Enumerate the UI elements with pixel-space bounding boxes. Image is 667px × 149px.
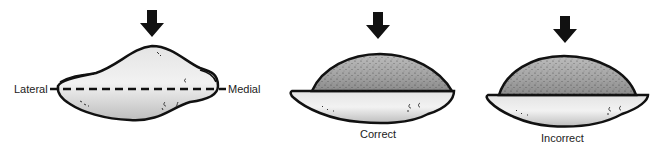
lens-shape — [58, 46, 218, 120]
diagram-canvas: Lateral Medial Correct Incorrect — [0, 0, 667, 149]
base-shape — [291, 91, 454, 123]
base-shape — [487, 95, 648, 127]
dome-stipple — [499, 56, 636, 95]
dome-stipple — [312, 54, 452, 91]
caption-incorrect: Incorrect — [541, 132, 584, 144]
down-arrow-icon — [140, 10, 164, 37]
figure-reference: Lateral Medial — [14, 10, 260, 120]
label-medial: Medial — [228, 83, 260, 95]
figure-incorrect: Incorrect — [487, 16, 648, 144]
down-arrow-icon — [553, 16, 577, 43]
label-lateral: Lateral — [14, 83, 48, 95]
down-arrow-icon — [366, 12, 390, 39]
figure-correct: Correct — [291, 12, 454, 140]
caption-correct: Correct — [360, 128, 396, 140]
